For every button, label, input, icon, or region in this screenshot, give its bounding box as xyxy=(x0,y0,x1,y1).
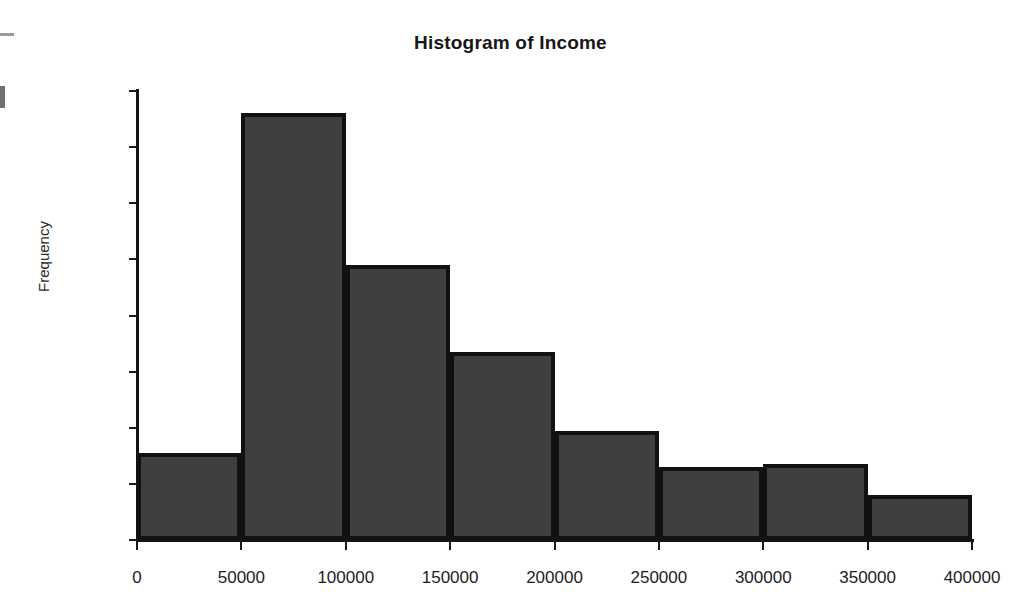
x-tick-mark xyxy=(240,541,242,550)
scan-artifact-glyph xyxy=(0,86,5,108)
x-tick-mark xyxy=(762,541,764,550)
x-tick-mark xyxy=(136,541,138,550)
x-tick-mark xyxy=(449,541,451,550)
histogram-bar xyxy=(450,352,554,540)
y-tick-mark xyxy=(129,258,137,260)
y-tick-mark xyxy=(129,315,137,317)
x-tick-mark xyxy=(658,541,660,550)
x-tick-mark xyxy=(554,541,556,550)
chart-title: Histogram of Income xyxy=(0,32,1021,54)
y-tick-mark xyxy=(129,146,137,148)
y-tick-mark xyxy=(129,371,137,373)
y-tick-mark xyxy=(129,90,137,92)
histogram-bar xyxy=(241,113,345,540)
y-tick-mark xyxy=(129,202,137,204)
histogram-bar xyxy=(868,495,972,540)
plot-area: 020406080100120140160 050000100000150000… xyxy=(137,91,972,540)
y-tick-mark xyxy=(129,483,137,485)
histogram-bar xyxy=(659,467,763,540)
y-tick-mark xyxy=(129,427,137,429)
histogram-bar xyxy=(763,464,867,540)
histogram-chart: Histogram of Income Frequency 0204060801… xyxy=(0,0,1021,612)
histogram-bar xyxy=(137,453,241,540)
x-tick-mark xyxy=(867,541,869,550)
x-tick-mark xyxy=(345,541,347,550)
x-tick-mark xyxy=(971,541,973,550)
histogram-bar xyxy=(346,265,450,540)
y-axis-title: Frequency xyxy=(35,177,52,337)
histogram-bar xyxy=(555,431,659,540)
x-tick-label: 400000 xyxy=(902,568,1021,588)
